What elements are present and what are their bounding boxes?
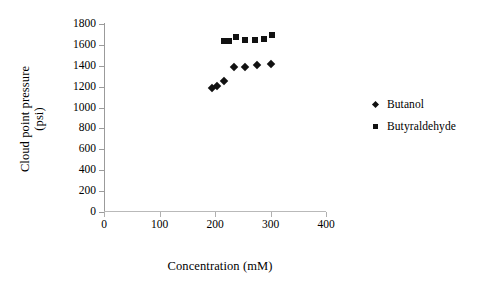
y-axis-tick-label: 600	[56, 143, 96, 155]
x-axis-title: Concentration (mM)	[100, 259, 340, 274]
data-point-butanol	[230, 63, 238, 71]
diamond-marker-icon	[368, 102, 382, 107]
y-axis-tick-label: 1800	[56, 18, 96, 30]
x-axis-tick-label: 0	[84, 219, 124, 231]
y-axis-tick-label: 400	[56, 164, 96, 176]
y-axis-tick-label: 0	[56, 206, 96, 218]
y-axis-tick-label: 1200	[56, 81, 96, 93]
square-marker-icon	[368, 124, 382, 129]
data-point-butyraldehyde	[261, 36, 267, 42]
data-point-butyraldehyde	[233, 34, 239, 40]
y-axis-title-line2: (psi)	[32, 24, 46, 214]
legend-item-butanol[interactable]: Butanol	[368, 93, 456, 115]
y-axis-tick-labels: 020040060080010001200140016001800	[52, 0, 96, 283]
legend-item-butyraldehyde[interactable]: Butyraldehyde	[368, 115, 456, 137]
x-axis-tick-label: 200	[195, 219, 235, 231]
data-point-butyraldehyde	[269, 32, 275, 38]
x-axis-tick	[326, 212, 327, 217]
data-point-butyraldehyde	[242, 37, 248, 43]
y-axis-title: Cloud point pressure (psi)	[18, 24, 46, 214]
data-point-butanol	[241, 63, 249, 71]
y-axis-tick-label: 1600	[56, 39, 96, 51]
data-point-butyraldehyde	[226, 38, 232, 44]
plot-area	[104, 24, 326, 212]
y-axis-tick-label: 1000	[56, 102, 96, 114]
x-axis-tick	[160, 212, 161, 217]
data-point-butanol	[220, 77, 228, 85]
y-axis-tick-label: 800	[56, 122, 96, 134]
data-point-butanol	[266, 59, 274, 67]
y-axis-title-line1: Cloud point pressure	[18, 66, 32, 172]
x-axis-tick-label: 400	[306, 219, 346, 231]
legend-item-label: Butyraldehyde	[387, 120, 456, 132]
chart-legend: Butanol Butyraldehyde	[368, 93, 456, 137]
data-point-butyraldehyde	[252, 37, 258, 43]
cloud-point-pressure-scatter-chart: Cloud point pressure (psi) 0200400600800…	[0, 0, 485, 283]
y-axis-tick-label: 1400	[56, 60, 96, 72]
x-axis-tick	[215, 212, 216, 217]
y-axis-tick-label: 200	[56, 185, 96, 197]
data-point-butanol	[252, 61, 260, 69]
x-axis-tick-label: 300	[251, 219, 291, 231]
x-axis-tick	[271, 212, 272, 217]
legend-item-label: Butanol	[387, 98, 424, 110]
x-axis-tick-label: 100	[140, 219, 180, 231]
x-axis-tick	[104, 212, 105, 217]
